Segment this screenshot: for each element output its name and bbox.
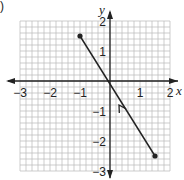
y-tick-label: −1: [92, 105, 106, 119]
data-series: [77, 33, 157, 158]
x-tick-label: 1: [137, 86, 144, 100]
y-axis-label: y: [97, 2, 105, 17]
y-axis-down-arrow-icon: [107, 170, 113, 179]
y-tick-label: 2: [99, 15, 106, 29]
y-tick-label: 1: [99, 45, 106, 59]
x-axis-left-arrow-icon: [6, 78, 15, 84]
endpoint-dot: [77, 33, 82, 38]
tick-labels: −3−2−11221−1−2−3: [13, 15, 174, 179]
y-tick-label: −2: [92, 135, 106, 149]
x-tick-label: −3: [13, 86, 27, 100]
x-tick-label: −1: [73, 86, 87, 100]
endpoint-dot: [152, 153, 157, 158]
problem-marker: ): [0, 0, 4, 13]
x-axis-label: x: [175, 83, 182, 98]
x-tick-label: 2: [167, 86, 174, 100]
line-segment: [80, 36, 155, 156]
coordinate-graph: ) −3−2−11221−1−2−3 x y: [0, 0, 184, 180]
x-tick-label: −2: [43, 86, 57, 100]
y-axis-up-arrow-icon: [107, 10, 113, 19]
y-tick-label: −3: [92, 165, 106, 179]
